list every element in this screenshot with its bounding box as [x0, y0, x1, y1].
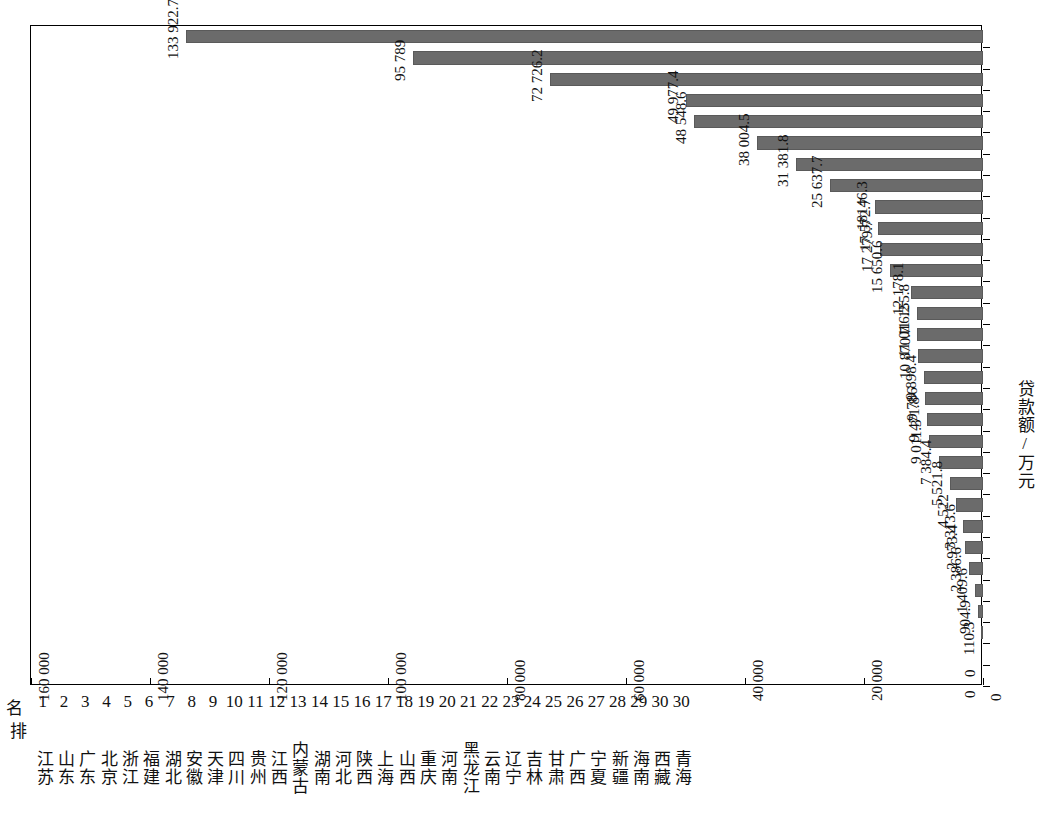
- bar-row: [31, 605, 983, 618]
- category-axis-tick: [983, 409, 990, 410]
- bar[interactable]: [965, 541, 983, 554]
- category-name-label: 青海: [668, 718, 695, 818]
- plot-area: [30, 25, 982, 685]
- bar[interactable]: [917, 328, 983, 341]
- bar[interactable]: [925, 392, 983, 405]
- bar-row: [31, 498, 983, 511]
- bar[interactable]: [917, 307, 983, 320]
- bar-row: [31, 264, 983, 277]
- category-axis-tick: [983, 601, 990, 602]
- bar-row: [31, 115, 983, 128]
- value-axis-tick-label: 100 000: [393, 652, 410, 701]
- bar-row: [31, 349, 983, 362]
- bar[interactable]: [686, 94, 983, 107]
- category-axis-tick: [983, 643, 990, 644]
- category-axis-tick: [983, 154, 990, 155]
- bar[interactable]: [927, 413, 983, 426]
- value-axis-tick-label: 80 000: [512, 660, 529, 701]
- category-axis-tick: [983, 239, 990, 240]
- bar-row: [31, 584, 983, 597]
- bar-row: [31, 435, 983, 448]
- bar[interactable]: [956, 498, 983, 511]
- category-axis-tick: [983, 516, 990, 517]
- category-axis-tick: [983, 303, 990, 304]
- bar-row: [31, 392, 983, 405]
- bar[interactable]: [911, 286, 983, 299]
- value-axis-tick-label: 0: [988, 694, 1005, 702]
- category-axis-tick: [983, 175, 990, 176]
- bar-row: [31, 136, 983, 149]
- value-axis-tick-label: 60 000: [631, 660, 648, 701]
- bar-row: [31, 222, 983, 235]
- bar[interactable]: [939, 456, 983, 469]
- bar-row: [31, 286, 983, 299]
- value-axis-tick-label: 40 000: [750, 660, 767, 701]
- value-axis-tick-label: 20 000: [869, 660, 886, 701]
- value-axis-tick-label: 140 000: [155, 652, 172, 701]
- category-axis-tick: [983, 494, 990, 495]
- category-axis-labels: 名 排 1江苏2山东3广东4北京5浙江6福建7湖北8安徽9天津10四川11贵州1…: [0, 688, 1055, 825]
- bar[interactable]: [924, 371, 983, 384]
- bar-row: [31, 647, 983, 660]
- bar-row: [31, 200, 983, 213]
- category-axis-tick: [983, 111, 990, 112]
- bar[interactable]: [875, 200, 983, 213]
- bar-row: [31, 626, 983, 639]
- chart-figure: 名 排 1江苏2山东3广东4北京5浙江6福建7湖北8安徽9天津10四川11贵州1…: [0, 0, 1055, 825]
- category-axis-tick: [983, 388, 990, 389]
- category-axis-tick: [983, 345, 990, 346]
- bar-value-label: 25 637.7: [810, 156, 825, 209]
- bar-row: [31, 328, 983, 341]
- category-axis-tick: [983, 218, 990, 219]
- category-axis-tick: [983, 558, 990, 559]
- bar[interactable]: [413, 51, 983, 64]
- bar-row: [31, 243, 983, 256]
- bar-value-label: 95 789: [393, 39, 408, 80]
- category-axis-tick: [983, 69, 990, 70]
- category-axis-tick: [983, 47, 990, 48]
- bar[interactable]: [975, 584, 983, 597]
- bar[interactable]: [950, 477, 983, 490]
- bar-row: [31, 456, 983, 469]
- bar-value-label: 0: [963, 690, 978, 698]
- category-axis-tick: [983, 324, 990, 325]
- category-axis-tick: [983, 260, 990, 261]
- bar[interactable]: [186, 30, 983, 43]
- category-axis-tick: [983, 90, 990, 91]
- category-axis-tick: [983, 452, 990, 453]
- name-header-label: 排: [4, 722, 29, 740]
- category-axis-tick: [983, 367, 990, 368]
- bar-value-label: 15 650.6: [870, 241, 885, 294]
- bar-row: [31, 94, 983, 107]
- bar-row: [31, 179, 983, 192]
- bar-row: [31, 307, 983, 320]
- bar-value-label: 133 922.7: [166, 0, 181, 59]
- bar-value-label: 72 726.2: [530, 49, 545, 102]
- bar-row: [31, 520, 983, 533]
- bar[interactable]: [969, 562, 983, 575]
- category-axis-tick: [983, 473, 990, 474]
- bar-row: [31, 477, 983, 490]
- bar[interactable]: [963, 520, 983, 533]
- bar[interactable]: [978, 605, 983, 618]
- bar-value-label: 31 381.8: [776, 134, 791, 187]
- bar-value-label: 110.3: [962, 622, 977, 655]
- bar-row: [31, 541, 983, 554]
- bar-row: [31, 73, 983, 86]
- bar[interactable]: [878, 222, 983, 235]
- value-axis-tick-label: 160 000: [36, 652, 53, 701]
- category-axis-tick: [983, 196, 990, 197]
- bar-row: [31, 562, 983, 575]
- bar[interactable]: [880, 243, 983, 256]
- bar-row: [31, 413, 983, 426]
- bar[interactable]: [981, 626, 983, 639]
- bar-value-label: 0: [963, 669, 978, 677]
- bar-row: [31, 371, 983, 384]
- bar-value-label: 48 548.6: [674, 92, 689, 145]
- bar[interactable]: [918, 349, 983, 362]
- category-axis-tick: [983, 281, 990, 282]
- bar[interactable]: [550, 73, 983, 86]
- rank-header-label: 名: [6, 694, 23, 719]
- bar[interactable]: [929, 435, 983, 448]
- category-axis-tick: [983, 686, 990, 687]
